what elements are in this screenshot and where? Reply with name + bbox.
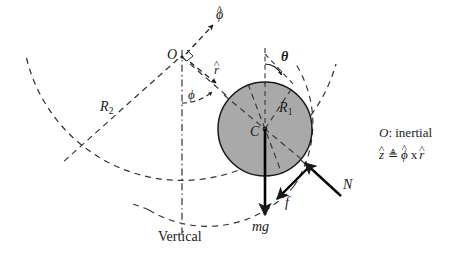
legend-phi-hat-caret: ˄ — [401, 142, 407, 153]
legend-r-hat-caret: ˄ — [419, 143, 425, 154]
figure-canvas: O C R2 R1 ϕ θ ˄ ϕ ˄ r mg f N Vertical O:… — [0, 0, 465, 263]
label-R1-subscript: 1 — [288, 107, 293, 117]
r-hat-caret: ˄ — [213, 58, 219, 69]
label-angle-phi: ϕ — [188, 88, 195, 101]
defined-as-symbol: ≜ — [388, 148, 398, 162]
phi-hat-caret: ˄ — [216, 3, 223, 15]
label-center-C: C — [250, 125, 259, 139]
z-hat-caret: ˄ — [378, 143, 384, 154]
label-force-mg: mg — [252, 220, 269, 234]
center-path-arc-left-tail — [128, 203, 149, 210]
phi-angle-arc — [182, 92, 212, 103]
origin-point-marker — [180, 55, 183, 58]
center-path-arc — [149, 186, 294, 226]
label-vertical: Vertical — [158, 230, 202, 244]
legend-inertial-line: O: inertial — [379, 126, 432, 139]
theta-reference-ray — [265, 54, 295, 86]
label-R2: R2 — [100, 100, 114, 116]
normal-vector-N — [305, 163, 341, 196]
label-R1-base: R — [279, 100, 288, 115]
label-R2-base: R — [100, 99, 109, 114]
label-angle-theta: θ — [281, 50, 288, 64]
label-origin-O: O — [167, 48, 177, 62]
legend-O-symbol: O — [379, 125, 388, 140]
label-phi-hat: ˄ ϕ — [216, 8, 223, 22]
r-hat-vector — [190, 62, 216, 83]
label-r-hat: ˄ r — [214, 63, 219, 76]
label-R1: R1 — [279, 101, 293, 117]
cross-product-symbol: x — [411, 147, 418, 162]
R2-leader-line — [62, 59, 178, 163]
legend-inertial-text: : inertial — [388, 125, 432, 140]
label-force-N: N — [343, 178, 352, 192]
legend-zhat-definition: ˄ z ≜ ˄ ϕ x ˄ r — [379, 148, 424, 161]
label-R2-subscript: 2 — [109, 106, 114, 116]
label-force-f: f — [285, 196, 289, 210]
phi-hat-vector — [186, 25, 213, 54]
